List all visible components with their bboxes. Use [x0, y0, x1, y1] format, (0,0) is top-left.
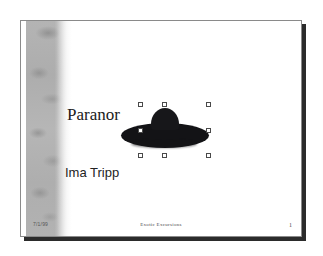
saucer-dome-icon [151, 108, 179, 130]
slide-subtitle[interactable]: Ima Tripp [65, 165, 119, 180]
slide-page-number: 1 [289, 222, 292, 228]
slide-title[interactable]: Paranor [67, 105, 120, 124]
selection-handle-middle-right[interactable] [206, 128, 211, 133]
slide-canvas: Paranor Ima Tripp 7/1/99 Exotic Excursio… [0, 0, 323, 256]
selection-handle-top-right[interactable] [206, 102, 211, 107]
selection-handle-top-center[interactable] [162, 102, 167, 107]
selection-handle-top-left[interactable] [138, 102, 143, 107]
presentation-slide[interactable]: Paranor Ima Tripp 7/1/99 Exotic Excursio… [20, 20, 302, 237]
selection-handle-middle-left[interactable] [138, 128, 143, 133]
slide-design-band [26, 21, 72, 236]
selection-handle-bottom-left[interactable] [138, 153, 143, 158]
slide-footer-text: Exotic Excursions [21, 222, 301, 227]
saucer-underside-icon [131, 140, 197, 148]
ufo-graphic-object[interactable] [121, 105, 209, 157]
selection-handle-bottom-center[interactable] [162, 153, 167, 158]
selection-handle-bottom-right[interactable] [206, 153, 211, 158]
